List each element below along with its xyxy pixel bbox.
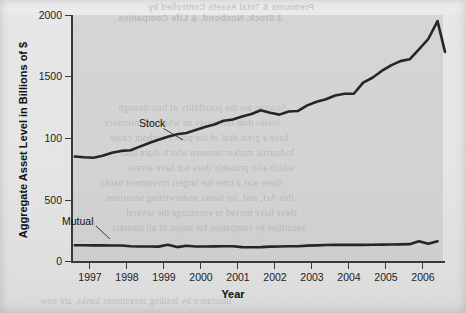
stock-series-label: Stock [139,118,165,129]
mutual-series-line [75,241,438,247]
chart-figure: Premiums & Total Assets Controlled by 3 … [0,0,466,313]
mutual-series-label: Mutual [62,216,94,227]
plot-lines [0,0,466,313]
mutual-label-leader-line [96,226,110,239]
stock-series-line [75,21,445,158]
